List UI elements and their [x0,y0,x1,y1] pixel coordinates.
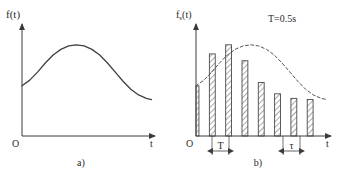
period-dimension: T [212,136,229,155]
panel-b-caption: b) [254,157,262,169]
sample-pulse [226,45,232,136]
panel-b-x-axis-label: t [326,138,329,149]
sample-pulse [196,86,199,136]
panel-b: fs(t) t O T=0.5s T τ [176,9,331,155]
panel-a-signal-curve [22,45,152,100]
panel-a-y-axis-label: f(t) [6,8,20,21]
panel-a-x-axis-label: t [150,138,153,149]
period-dimension-label: T [217,140,223,151]
sample-pulse [242,61,248,136]
panel-b-period-annotation: T=0.5s [268,13,296,24]
sample-pulse [258,82,264,136]
panel-b-y-axis-label: fs(t) [176,9,192,22]
panel-a-caption: a) [77,157,85,169]
sample-pulse [307,100,313,136]
pulse-width-dimension-label: τ [289,140,293,151]
sample-pulse [291,98,297,136]
panel-a: f(t) t O [6,8,155,149]
signal-sampling-figure: f(t) t O a) fs(t) t O T=0.5s T [0,0,348,175]
sample-pulse [209,54,215,136]
pulse-width-dimension: τ [283,136,300,155]
panel-a-origin-label: O [12,138,19,149]
panel-b-origin-label: O [186,138,193,149]
sample-pulse [275,94,281,136]
panel-b-pulse-group [196,45,313,136]
